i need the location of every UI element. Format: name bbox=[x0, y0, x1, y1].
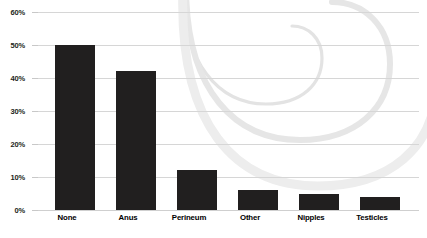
y-tick-label-30: 30% bbox=[0, 108, 25, 116]
x-axis-label-anus: Anus bbox=[96, 214, 160, 222]
tick-stub-0 bbox=[32, 210, 38, 211]
tick-stub-40 bbox=[32, 78, 38, 79]
tick-stub-30 bbox=[32, 111, 38, 112]
gridline-10 bbox=[38, 177, 419, 178]
bar-chart: 0% 10% 20% 30% 40% 50% 60% None Anus Per… bbox=[0, 0, 427, 238]
gridline-0 bbox=[38, 210, 419, 211]
x-axis-label-nipples: Nipples bbox=[279, 214, 343, 222]
tick-stub-60 bbox=[32, 12, 38, 13]
y-tick-label-20: 20% bbox=[0, 141, 25, 149]
bar-anus[interactable] bbox=[116, 71, 156, 210]
y-tick-label-50: 50% bbox=[0, 42, 25, 50]
x-axis-label-perineum: Perineum bbox=[157, 214, 221, 222]
y-tick-label-40: 40% bbox=[0, 75, 25, 83]
x-axis-label-testicles: Testicles bbox=[340, 214, 404, 222]
y-tick-label-60: 60% bbox=[0, 9, 25, 17]
gridline-20 bbox=[38, 144, 419, 145]
gridline-30 bbox=[38, 111, 419, 112]
tick-stub-50 bbox=[32, 45, 38, 46]
bar-testicles[interactable] bbox=[360, 197, 400, 210]
gridline-50 bbox=[38, 45, 419, 46]
tick-stub-10 bbox=[32, 177, 38, 178]
bar-perineum[interactable] bbox=[177, 170, 217, 210]
bar-nipples[interactable] bbox=[299, 194, 339, 211]
x-axis-label-other: Other bbox=[218, 214, 282, 222]
x-axis-label-none: None bbox=[35, 214, 99, 222]
bar-none[interactable] bbox=[55, 45, 95, 210]
plot-area: 0% 10% 20% 30% 40% 50% 60% bbox=[38, 12, 419, 210]
tick-stub-20 bbox=[32, 144, 38, 145]
y-tick-label-0: 0% bbox=[0, 207, 25, 215]
y-tick-label-10: 10% bbox=[0, 174, 25, 182]
gridline-40 bbox=[38, 78, 419, 79]
gridline-60 bbox=[38, 12, 419, 13]
bar-other[interactable] bbox=[238, 190, 278, 210]
